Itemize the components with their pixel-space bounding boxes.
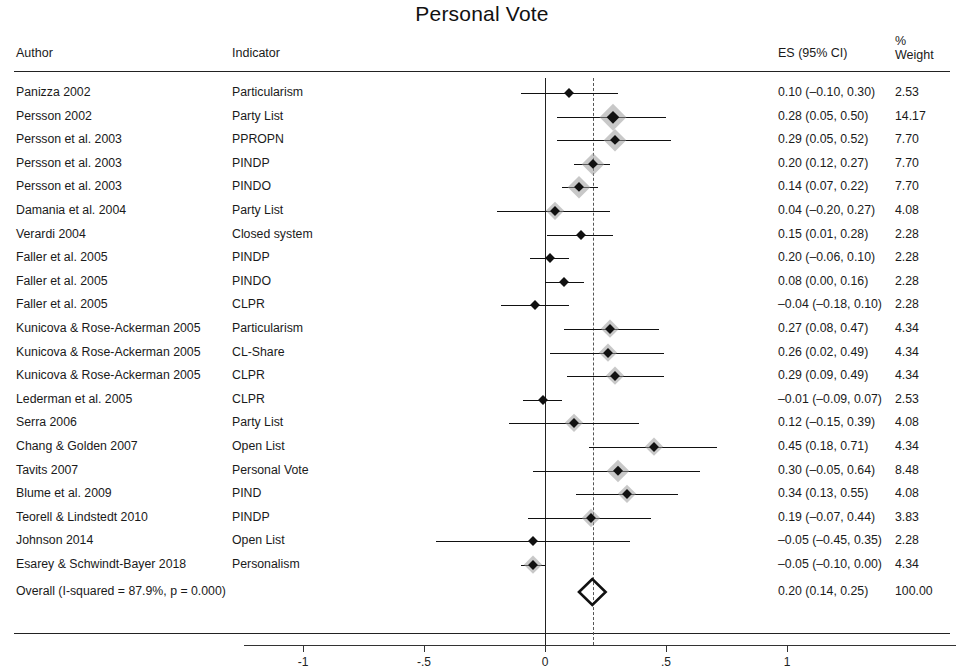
page-title: Personal Vote (0, 2, 964, 26)
study-effect-size: 0.28 (0.05, 0.50) (778, 109, 868, 123)
study-author: Persson et al. 2003 (16, 132, 122, 146)
study-effect-size: 0.45 (0.18, 0.71) (778, 439, 868, 453)
study-indicator: CLPR (232, 297, 265, 311)
column-header-indicator: Indicator (232, 46, 280, 60)
study-weight: 2.53 (895, 392, 919, 406)
study-effect-size: 0.29 (0.05, 0.52) (778, 132, 868, 146)
study-effect-size: 0.04 (–0.20, 0.27) (778, 203, 875, 217)
study-effect-size: 0.20 (0.12, 0.27) (778, 156, 868, 170)
study-author: Johnson 2014 (16, 533, 93, 547)
study-author: Lederman et al. 2005 (16, 392, 132, 406)
study-author: Esarey & Schwindt-Bayer 2018 (16, 557, 186, 571)
study-weight: 7.70 (895, 179, 919, 193)
study-weight: 4.34 (895, 321, 919, 335)
study-indicator: Closed system (232, 227, 313, 241)
axis-tick-label: 0 (542, 655, 549, 669)
axis-tick-label: .5 (661, 655, 671, 669)
study-indicator: CLPR (232, 392, 265, 406)
study-author: Tavits 2007 (16, 463, 78, 477)
forest-plot: Personal Vote Author Indicator ES (95% C… (0, 0, 964, 671)
overall-effect-size: 0.20 (0.14, 0.25) (778, 584, 868, 598)
overall-weight: 100.00 (895, 584, 933, 598)
axis-tick (545, 645, 546, 652)
axis-tick (666, 645, 667, 652)
study-author: Serra 2006 (16, 415, 77, 429)
study-indicator: Open List (232, 533, 285, 547)
weight-label: Weight (895, 48, 934, 62)
axis-tick (424, 645, 425, 652)
study-author: Blume et al. 2009 (16, 486, 112, 500)
study-author: Faller et al. 2005 (16, 297, 108, 311)
null-effect-line (545, 78, 546, 645)
study-weight: 8.48 (895, 463, 919, 477)
study-effect-size: 0.15 (0.01, 0.28) (778, 227, 868, 241)
study-author: Kunicova & Rose-Ackerman 2005 (16, 321, 201, 335)
study-weight: 4.34 (895, 368, 919, 382)
effect-size-marker (576, 230, 586, 240)
weight-percent-symbol: % (895, 34, 906, 48)
study-author: Kunicova & Rose-Ackerman 2005 (16, 345, 201, 359)
study-indicator: PPROPN (232, 132, 284, 146)
study-weight: 2.28 (895, 227, 919, 241)
study-indicator: Party List (232, 415, 283, 429)
study-author: Faller et al. 2005 (16, 250, 108, 264)
study-weight: 2.28 (895, 250, 919, 264)
study-weight: 4.34 (895, 439, 919, 453)
study-weight: 2.28 (895, 533, 919, 547)
column-header-weight: %Weight (895, 34, 934, 63)
study-effect-size: 0.08 (0.00, 0.16) (778, 274, 868, 288)
study-weight: 4.08 (895, 203, 919, 217)
header-divider-top (14, 71, 950, 72)
column-header-es: ES (95% CI) (778, 46, 847, 60)
study-effect-size: 0.26 (0.02, 0.49) (778, 345, 868, 359)
study-indicator: PINDP (232, 250, 270, 264)
footer-divider-bottom (14, 633, 950, 634)
study-weight: 3.83 (895, 510, 919, 524)
study-effect-size: 0.29 (0.09, 0.49) (778, 368, 868, 382)
study-effect-size: 0.19 (–0.07, 0.44) (778, 510, 875, 524)
study-effect-size: –0.04 (–0.18, 0.10) (778, 297, 882, 311)
study-weight: 4.34 (895, 557, 919, 571)
study-author: Teorell & Lindstedt 2010 (16, 510, 148, 524)
study-author: Damania et al. 2004 (16, 203, 126, 217)
axis-tick (787, 645, 788, 652)
study-weight: 2.28 (895, 297, 919, 311)
study-effect-size: 0.14 (0.07, 0.22) (778, 179, 868, 193)
effect-size-marker (559, 277, 569, 287)
axis-tick-label: -1 (298, 655, 309, 669)
study-weight: 2.28 (895, 274, 919, 288)
study-indicator: PINDP (232, 156, 270, 170)
study-indicator: CLPR (232, 368, 265, 382)
effect-size-marker (528, 536, 538, 546)
study-author: Verardi 2004 (16, 227, 86, 241)
study-effect-size: –0.01 (–0.09, 0.07) (778, 392, 882, 406)
study-effect-size: 0.12 (–0.15, 0.39) (778, 415, 875, 429)
axis-line (244, 645, 956, 646)
study-author: Chang & Golden 2007 (16, 439, 138, 453)
study-weight: 2.53 (895, 85, 919, 99)
study-weight: 14.17 (895, 109, 926, 123)
axis-tick (303, 645, 304, 652)
study-author: Panizza 2002 (16, 85, 91, 99)
study-weight: 7.70 (895, 132, 919, 146)
effect-size-marker (530, 300, 540, 310)
study-indicator: Party List (232, 203, 283, 217)
study-indicator: PINDO (232, 274, 271, 288)
study-weight: 4.34 (895, 345, 919, 359)
study-indicator: PINDP (232, 510, 270, 524)
study-author: Kunicova & Rose-Ackerman 2005 (16, 368, 201, 382)
study-effect-size: 0.10 (–0.10, 0.30) (778, 85, 875, 99)
study-author: Faller et al. 2005 (16, 274, 108, 288)
overall-author: Overall (I-squared = 87.9%, p = 0.000) (16, 584, 226, 598)
study-author: Persson et al. 2003 (16, 156, 122, 170)
study-weight: 4.08 (895, 415, 919, 429)
study-indicator: PIND (232, 486, 261, 500)
study-indicator: Personalism (232, 557, 300, 571)
study-effect-size: 0.27 (0.08, 0.47) (778, 321, 868, 335)
study-author: Persson et al. 2003 (16, 179, 122, 193)
study-effect-size: 0.34 (0.13, 0.55) (778, 486, 868, 500)
axis-tick-label: 1 (784, 655, 791, 669)
column-header-author: Author (16, 46, 53, 60)
effect-size-marker (538, 395, 548, 405)
study-indicator: PINDO (232, 179, 271, 193)
